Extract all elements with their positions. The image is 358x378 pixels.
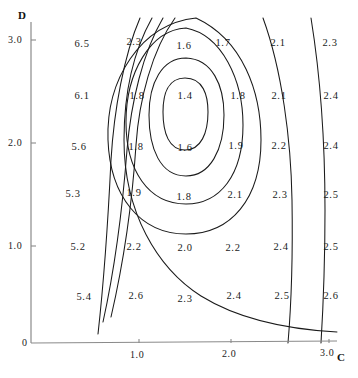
contour-value-label: 1.7 <box>215 38 230 49</box>
contour-value-label: 1.9 <box>126 188 141 199</box>
contour-value-label: 2.2 <box>271 141 286 152</box>
contour-value-label: 2.3 <box>272 190 287 201</box>
x-axis-tick-label: 3.0 <box>320 348 334 358</box>
contour-value-label: 2.2 <box>126 242 141 253</box>
contour-value-label: 2.0 <box>177 243 192 254</box>
contour-value-label: 2.3 <box>126 37 141 48</box>
contour-value-label: 1.8 <box>230 91 245 102</box>
contour-value-label: 2.3 <box>177 294 192 305</box>
contour-value-label: 5.2 <box>70 242 85 253</box>
contour-value-label: 2.2 <box>225 243 240 254</box>
contour-value-label: 2.4 <box>226 291 241 302</box>
y-axis-title: D <box>18 10 26 21</box>
contour-value-label: 5.3 <box>65 189 80 200</box>
contour-value-label: 2.5 <box>323 242 338 253</box>
contour-value-label: 2.1 <box>271 91 286 102</box>
contour-value-label: 5.4 <box>76 292 91 303</box>
y-axis-tick-label: 1.0 <box>8 241 22 251</box>
contour-value-label: 5.6 <box>71 142 86 153</box>
y-axis-tick-label: 0 <box>22 338 28 348</box>
y-axis-tick-label: 2.0 <box>8 138 22 148</box>
x-axis-tick-label: 2.0 <box>222 349 236 359</box>
contour-value-label: 1.4 <box>177 91 192 102</box>
contour-plot-figure: 6.52.31.61.72.12.36.11.81.41.82.12.45.61… <box>0 0 358 378</box>
contour-value-label: 1.8 <box>129 91 144 102</box>
contour-line <box>126 28 243 204</box>
contour-value-label: 2.4 <box>323 91 338 102</box>
contour-value-label: 1.6 <box>177 143 192 154</box>
contour-value-label: 2.3 <box>322 38 337 49</box>
contour-line <box>124 18 337 332</box>
contour-value-label: 2.4 <box>273 242 288 253</box>
contour-value-label: 2.1 <box>227 190 242 201</box>
contour-value-label: 1.8 <box>176 192 191 203</box>
contour-value-label: 2.4 <box>323 141 338 152</box>
contour-value-label: 1.8 <box>128 142 143 153</box>
contour-value-label: 1.6 <box>176 41 191 52</box>
contour-value-label: 2.5 <box>274 291 289 302</box>
x-axis-title: C <box>337 352 345 363</box>
contour-value-label: 1.9 <box>228 141 243 152</box>
x-axis-tick-label: 1.0 <box>130 350 144 360</box>
contour-value-label: 2.6 <box>128 291 143 302</box>
contour-line <box>149 58 224 176</box>
x-axis-line <box>31 341 337 343</box>
contour-value-label: 6.1 <box>74 91 89 102</box>
contour-value-label: 2.1 <box>270 38 285 49</box>
contour-value-label: 6.5 <box>74 39 89 50</box>
contour-value-label: 2.5 <box>323 190 338 201</box>
contour-svg-canvas <box>0 0 358 378</box>
y-axis-tick-label: 3.0 <box>8 35 22 45</box>
contour-value-label: 2.6 <box>323 291 338 302</box>
